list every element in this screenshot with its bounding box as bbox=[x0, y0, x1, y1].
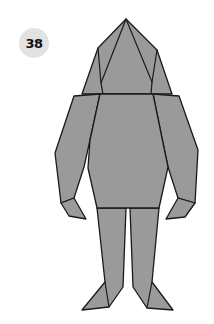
left-hand bbox=[61, 198, 86, 219]
head bbox=[82, 19, 172, 94]
origami-figure-diagram bbox=[0, 0, 214, 324]
body bbox=[88, 94, 168, 208]
right-hand bbox=[166, 198, 195, 219]
left-leg bbox=[82, 208, 126, 310]
right-leg bbox=[130, 208, 173, 310]
